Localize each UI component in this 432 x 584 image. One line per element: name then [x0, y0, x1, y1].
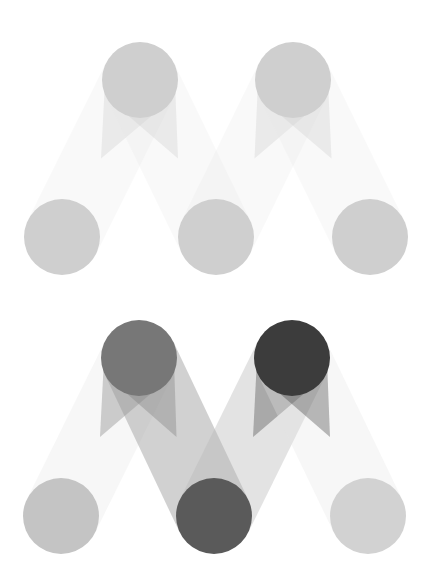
circle-bottom-left	[24, 199, 100, 275]
m-logo-light-graphic	[0, 0, 432, 292]
logo-dark	[0, 279, 432, 571]
circle-bottom-left	[23, 478, 99, 554]
m-logo-dark-graphic	[0, 279, 432, 571]
circle-bottom-middle	[176, 478, 252, 554]
circle-top-left	[101, 320, 177, 396]
circle-bottom-right	[330, 478, 406, 554]
circle-top-right	[254, 320, 330, 396]
circle-bottom-right	[332, 199, 408, 275]
circle-top-right	[255, 42, 331, 118]
logo-sheet	[0, 0, 432, 584]
logo-light	[0, 0, 432, 292]
circle-bottom-middle	[178, 199, 254, 275]
circle-top-left	[102, 42, 178, 118]
